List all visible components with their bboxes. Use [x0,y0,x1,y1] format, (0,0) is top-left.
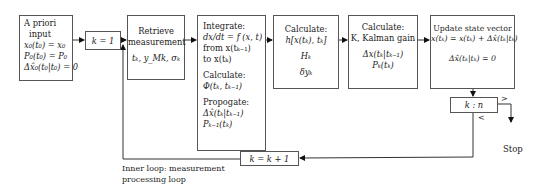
integrate-box: Integrate: dx/dt = f (x, t) from x(tₖ₋₁)… [197,15,266,151]
compare-label: k : n [465,100,483,110]
k-init-box: k = 1 [85,31,121,50]
integrate-title: Integrate: [203,21,265,32]
calculate-title: Calculate: [203,70,265,81]
calc-k-dx: Δx(tₖ|tₖ₋₁) [349,49,417,60]
propagate-dx: Δx̂(tₖ|tₖ₋₁) [203,108,265,119]
calc-h-matrix: Hₖ [274,51,338,62]
less-than-label: < [478,113,485,122]
integrate-ode: dx/dt = f (x, t) [203,32,265,43]
calc-k-title: Calculate: [349,22,417,33]
propagate-title: Propogate: [203,97,265,108]
greater-than-label: > [501,94,508,103]
calc-h-func: h[x(tₖ), tₖ] [274,35,338,46]
update-state-box: Update state vector x(tₖ) = x(tₖ) + Δx̂(… [430,15,515,89]
integrate-from: from x(tₖ₋₁) [203,43,265,54]
update-eq-x: x(tₖ) = x(tₖ) + Δx̂(tₖ|tₖ) [431,34,514,44]
retrieve-vars: tₖ, y_Mk, σₖ [128,53,184,64]
loop-caption-line1: Inner loop: measurement [122,164,225,173]
loop-caption-line2: processing loop [122,175,186,184]
update-eq-dx: Δx̂(tₖ|tₖ) = 0 [431,54,514,64]
calculate-phi: Φ(tₖ, tₖ₋₁) [203,81,265,92]
k-increment-label: k = k + 1 [250,154,290,164]
stop-label: Stop [503,144,523,154]
integrate-to: to x(tₖ) [203,54,265,65]
a-priori-eq-dx: Δx̂₀(t₀|t₀) = 0 [24,62,72,73]
update-title: Update state vector [431,24,514,34]
calc-k-gain: K, Kalman gain [349,33,417,44]
retrieve-title: Retrieve [128,26,184,37]
retrieve-measurement-box: Retrieve measurement tₖ, y_Mk, σₖ [127,15,185,80]
propagate-p: Pₖ₋₁(tₖ) [203,119,265,130]
a-priori-subtitle: input [24,29,72,40]
k-increment-box: k = k + 1 [240,151,299,166]
calculate-h-box: Calculate: h[x(tₖ), tₖ] Hₖ δyₖ [273,15,339,89]
calc-k-p: Pₖ(tₖ) [349,60,417,71]
a-priori-eq-x: x₀(t₀) = x₀ [24,40,72,51]
a-priori-eq-p: P₀(t₀) = P₀ [24,51,72,62]
retrieve-subtitle: measurement [128,37,184,48]
calculate-kalman-box: Calculate: K, Kalman gain Δx(tₖ|tₖ₋₁) Pₖ… [348,15,418,89]
k-init-label: k = 1 [92,36,115,46]
a-priori-input-box: A priori input x₀(t₀) = x₀ P₀(t₀) = P₀ Δ… [19,15,73,81]
compare-k-n-box: k : n [450,97,498,113]
a-priori-title: A priori [24,18,72,29]
calc-h-residual: δyₖ [274,67,338,78]
calc-h-title: Calculate: [274,24,338,35]
